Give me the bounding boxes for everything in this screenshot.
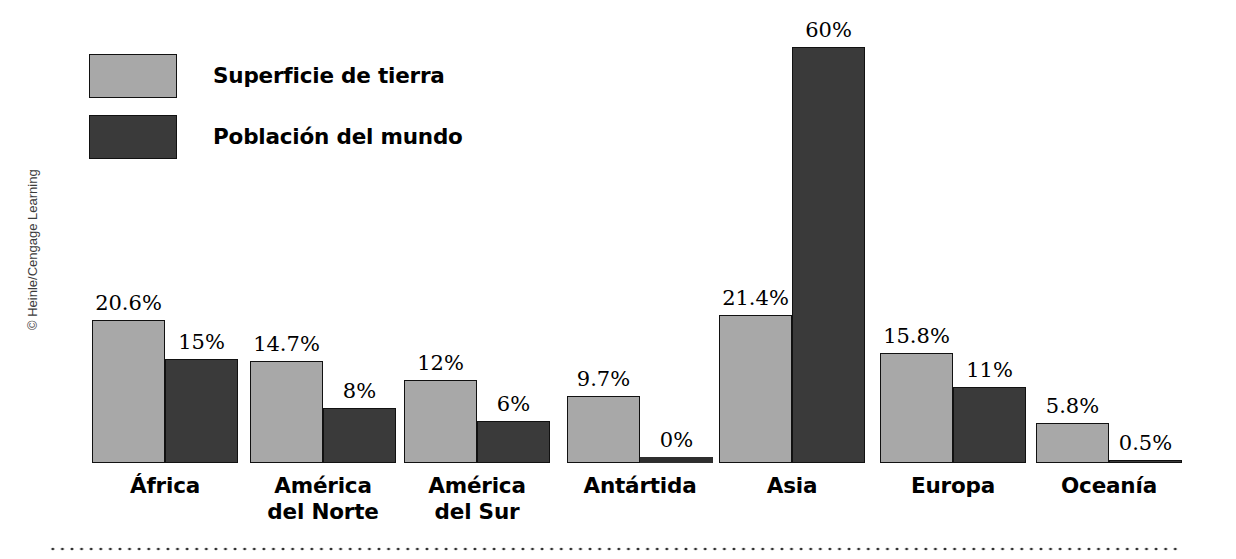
bar-value-label: 20.6%	[84, 291, 173, 315]
bar	[567, 396, 640, 463]
bar	[165, 359, 238, 463]
bar-value-label: 5.8%	[1028, 394, 1117, 418]
bottom-dotted-divider	[48, 547, 1182, 551]
bar	[250, 361, 323, 463]
plot-area: 20.6%15%África14.7%8%América del Norte12…	[0, 0, 1236, 559]
bar	[477, 421, 550, 463]
bar-value-label: 0%	[632, 428, 721, 452]
bar-value-label: 21.4%	[711, 286, 800, 310]
bar-value-label: 12%	[396, 351, 485, 375]
bar	[640, 457, 713, 463]
bar-value-label: 11%	[945, 358, 1034, 382]
bar	[1036, 423, 1109, 463]
bar	[92, 320, 165, 463]
copyright-credit: © Heinle/Cengage Learning	[25, 169, 40, 330]
bar-value-label: 9.7%	[559, 367, 648, 391]
bar-value-label: 8%	[315, 379, 404, 403]
bar	[719, 315, 792, 463]
category-label: Oceanía	[1001, 473, 1217, 499]
bar-value-label: 60%	[784, 18, 873, 42]
bar-value-label: 0.5%	[1101, 431, 1190, 455]
bar-value-label: 6%	[469, 392, 558, 416]
bar-value-label: 15.8%	[872, 324, 961, 348]
bar-value-label: 14.7%	[242, 332, 331, 356]
bar-chart: Superficie de tierra Población del mundo…	[0, 0, 1236, 559]
bar-value-label: 15%	[157, 330, 246, 354]
bar	[1109, 460, 1182, 463]
bar	[880, 353, 953, 463]
bar	[323, 408, 396, 463]
bar	[404, 380, 477, 463]
bar	[792, 47, 865, 463]
bar	[953, 387, 1026, 463]
